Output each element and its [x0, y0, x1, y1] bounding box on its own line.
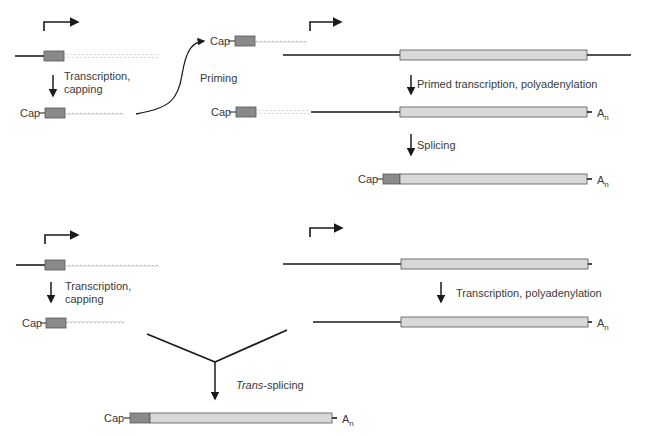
label-splicing-rest: -splicing: [263, 379, 303, 391]
priming-curve: [136, 41, 204, 114]
promoter-arrow-top-left: [44, 22, 78, 31]
gene-top-left: [15, 51, 159, 61]
label-trans-italic: Trans: [236, 379, 263, 391]
cap-label-primed-transcript: Cap: [211, 106, 231, 118]
cap-label-primer: Cap: [210, 35, 230, 47]
capped-rna-top-left: [39, 108, 124, 118]
label-priming: Priming: [200, 72, 237, 85]
label-splicing: Splicing: [417, 139, 456, 152]
polyA-n: n: [604, 180, 608, 189]
label-transcription-capping-top: Transcription, capping: [64, 70, 130, 96]
polyA-label-top-1: An: [597, 107, 609, 124]
promoter-arrow-bottom-right: [310, 228, 342, 237]
label-trans-splicing: Trans-splicing: [236, 379, 304, 392]
cap-label-bottom-left: Cap: [22, 317, 42, 329]
polyA-n: n: [604, 323, 608, 332]
polyA-label-trans-spliced: An: [342, 413, 354, 430]
promoter-arrow-bottom-left: [45, 235, 78, 244]
diagram-canvas: [0, 0, 647, 436]
polyA-label-bottom-right: An: [597, 317, 609, 334]
polyA-n: n: [604, 113, 608, 122]
label-line-2: capping: [65, 293, 131, 306]
cap-label-trans-spliced: Cap: [104, 412, 124, 424]
primed-transcript: [229, 107, 592, 117]
polyA-n: n: [349, 419, 353, 428]
label-transcription-polyadenylation: Transcription, polyadenylation: [456, 287, 602, 300]
primer-rna: [228, 36, 307, 46]
gene-top-right: [283, 50, 631, 60]
cap-label-top-left: Cap: [20, 107, 40, 119]
gene-bottom-right: [283, 259, 592, 269]
capped-rna-bottom-left: [40, 318, 124, 328]
promoter-arrow-top-right: [310, 22, 341, 31]
polyA-label-top-2: An: [597, 174, 609, 191]
trans-spliced-mrna: [124, 413, 337, 423]
label-primed-transcription: Primed transcription, polyadenylation: [417, 78, 597, 91]
spliced-mrna-top: [377, 174, 592, 184]
label-line-1: Transcription,: [64, 70, 130, 83]
label-transcription-capping-bottom: Transcription, capping: [65, 280, 131, 306]
cap-label-spliced: Cap: [358, 173, 378, 185]
label-line-1: Transcription,: [65, 280, 131, 293]
transcript-bottom-right: [313, 317, 592, 327]
gene-bottom-left: [16, 260, 159, 270]
label-line-2: capping: [64, 83, 130, 96]
